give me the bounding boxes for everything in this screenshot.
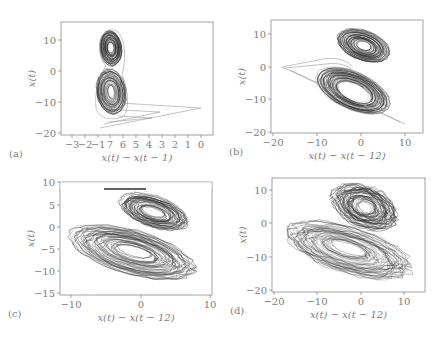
- x-tick-label: −10: [306, 296, 327, 307]
- x-tick-label: 0: [358, 296, 364, 307]
- y-tick-label: 0: [260, 62, 266, 73]
- panel-label: (d): [230, 305, 244, 316]
- y-tick-label: −10: [245, 94, 266, 105]
- y-tick-label: 5: [49, 200, 55, 211]
- fixed-point-hole: [110, 45, 113, 51]
- x-tick-label: −20: [263, 296, 284, 307]
- x-tick-label: 0: [198, 139, 204, 150]
- y-tick-label: −20: [246, 285, 267, 296]
- panel-label: (a): [9, 148, 23, 159]
- y-tick-label: 10: [254, 185, 267, 196]
- x-tick-label: −20: [262, 137, 283, 148]
- x-tick-label: −1: [91, 139, 106, 150]
- x-tick-label: 3: [159, 139, 165, 150]
- panel-d: 100−10−20−20−10010x(t) − x(t − 12)x(t)(d…: [230, 178, 425, 320]
- y-tick-label: −20: [245, 127, 266, 138]
- y-tick-label: 0: [50, 66, 56, 77]
- y-tick-label: 10: [42, 177, 55, 188]
- y-axis-label: x(t): [236, 68, 247, 86]
- panel-a: 100−10−20−3−2−176543210x(t) − x(t − 1)x(…: [9, 22, 213, 163]
- panel-label: (b): [229, 146, 243, 157]
- y-tick-label: −5: [40, 244, 55, 255]
- y-tick-label: 10: [253, 29, 266, 40]
- panel-b: 100−10−20−20−10010x(t) − x(t − 12)x(t)(b…: [229, 20, 423, 161]
- trajectory-group: [287, 183, 413, 280]
- x-axis-label: x(t) − x(t − 12): [308, 150, 385, 161]
- x-tick-label: 4: [146, 139, 152, 150]
- x-tick-label: 6: [120, 139, 126, 150]
- panel-c: 1050−5−10−15−10010x(t) − x(t − 12)x(t)(c…: [8, 177, 216, 324]
- y-axis-label: x(t): [25, 230, 36, 248]
- y-tick-label: −20: [35, 128, 56, 139]
- x-axis-label: x(t) − x(t − 12): [97, 312, 174, 323]
- x-tick-label: 0: [138, 299, 144, 310]
- x-tick-label: 0: [358, 137, 364, 148]
- y-axis-label: x(t): [237, 226, 248, 244]
- x-tick-label: −10: [60, 299, 81, 310]
- x-tick-label: 5: [133, 139, 139, 150]
- trajectory-group: [96, 30, 201, 128]
- y-tick-label: 0: [261, 218, 267, 229]
- x-tick-label: 10: [399, 137, 412, 148]
- fixed-point-hole: [110, 88, 113, 93]
- trajectory-group: [60, 182, 212, 280]
- y-tick-label: 10: [43, 35, 56, 46]
- plot-frame: [61, 22, 213, 135]
- x-tick-label: −10: [306, 137, 327, 148]
- y-tick-label: −15: [34, 288, 55, 299]
- y-tick-label: 0: [49, 222, 55, 233]
- x-tick-label: 10: [398, 296, 411, 307]
- y-tick-label: −10: [35, 97, 56, 108]
- x-tick-label: 2: [172, 139, 178, 150]
- trajectory-path: [282, 58, 352, 67]
- x-axis-label: x(t) − x(t − 1): [102, 152, 173, 163]
- trajectory-group: [282, 29, 405, 125]
- x-tick-label: 10: [204, 299, 217, 310]
- clip-band: [60, 182, 212, 189]
- plot-frame: [272, 178, 425, 292]
- y-tick-label: −10: [34, 266, 55, 277]
- panel-label: (c): [8, 308, 22, 319]
- x-tick-label: 7: [107, 139, 113, 150]
- x-tick-label: 1: [185, 139, 191, 150]
- y-tick-label: −10: [246, 252, 267, 263]
- figure-canvas: 100−10−20−3−2−176543210x(t) − x(t − 1)x(…: [0, 0, 443, 339]
- y-axis-label: x(t): [26, 70, 37, 88]
- x-axis-label: x(t) − x(t − 12): [310, 309, 387, 320]
